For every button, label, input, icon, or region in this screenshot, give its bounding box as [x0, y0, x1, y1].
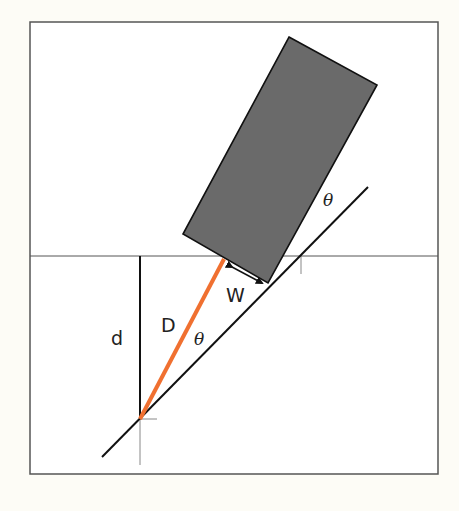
label-W: W [226, 284, 245, 306]
diagram: d D W θ θ [0, 0, 459, 511]
label-theta-upper: θ [323, 190, 333, 210]
label-d: d [111, 327, 123, 349]
label-theta-lower: θ [194, 329, 204, 349]
label-D: D [161, 314, 176, 336]
